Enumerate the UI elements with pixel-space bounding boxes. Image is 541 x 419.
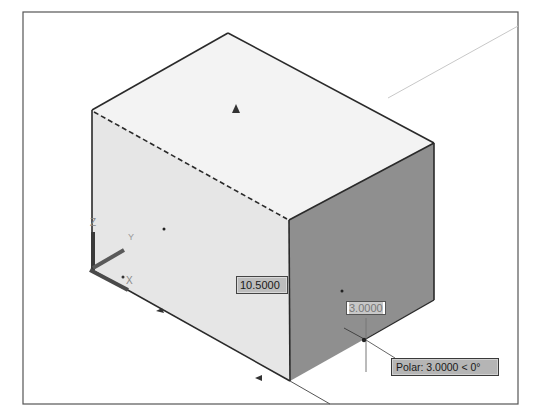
ucs-y-label: Y <box>128 232 134 242</box>
dimension-length-label: 10.5000 <box>236 276 288 294</box>
dynamic-input-field[interactable]: 3.0000 <box>346 301 386 315</box>
dynamic-input-value[interactable]: 3.0000 <box>349 302 383 314</box>
drawing-viewport[interactable]: Z Y X 10.5000 3.0000 Polar: 3.0000 < 0° <box>0 0 541 419</box>
point-marker <box>341 290 344 293</box>
ucs-z-label: Z <box>90 217 96 228</box>
polar-tracking-tooltip: Polar: 3.0000 < 0° <box>391 358 499 376</box>
point-marker <box>163 228 166 231</box>
ucs-x-label: X <box>126 275 133 286</box>
model-space-canvas[interactable]: Z Y X <box>0 0 541 419</box>
